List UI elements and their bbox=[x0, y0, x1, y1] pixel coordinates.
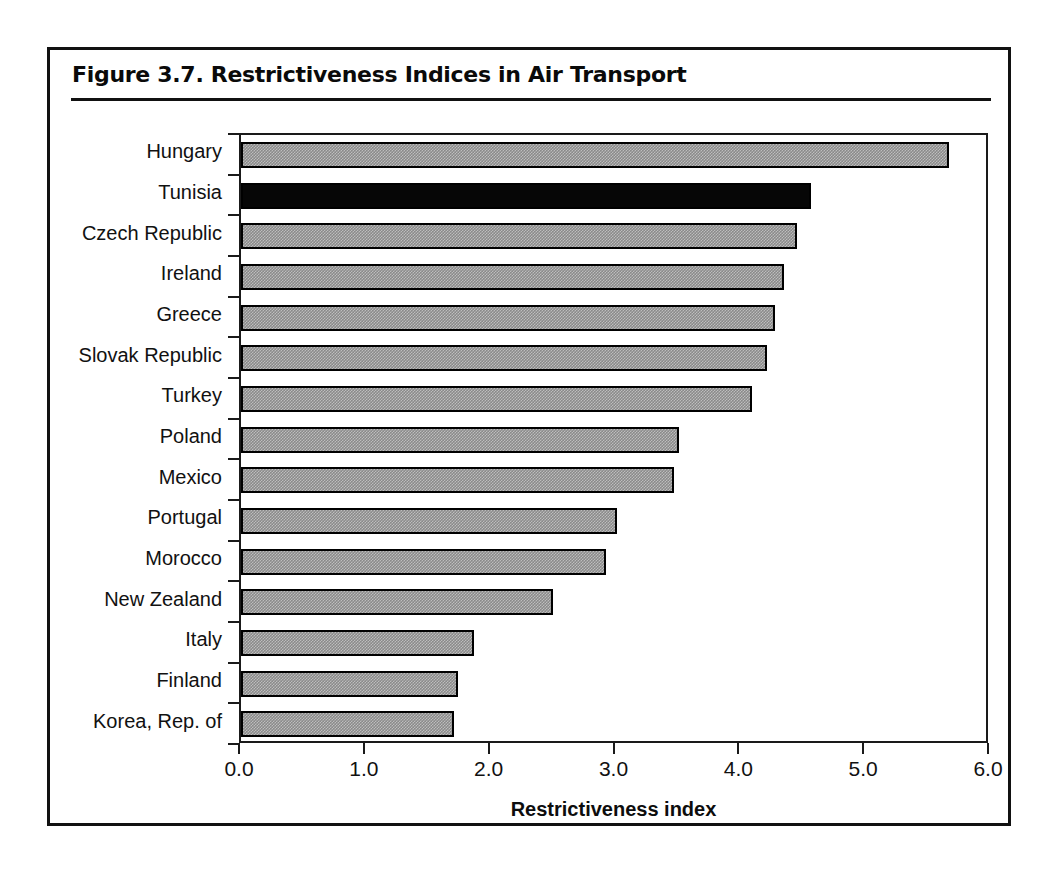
y-axis-tick bbox=[228, 296, 239, 298]
bar bbox=[241, 549, 606, 575]
y-axis-label: Mexico bbox=[42, 466, 222, 489]
bar-row bbox=[241, 460, 986, 501]
bar-chart: HungaryTunisiaCzech RepublicIrelandGreec… bbox=[50, 50, 1014, 829]
bar-row bbox=[241, 542, 986, 583]
bar-row bbox=[241, 501, 986, 542]
y-axis-tick bbox=[228, 621, 239, 623]
figure-frame: Figure 3.7. Restrictiveness Indices in A… bbox=[47, 47, 1011, 826]
x-axis-tick bbox=[363, 743, 365, 754]
bar-row bbox=[241, 623, 986, 664]
y-axis-label: Turkey bbox=[42, 384, 222, 407]
y-axis-label: Tunisia bbox=[42, 181, 222, 204]
y-axis-label: Korea, Rep. of bbox=[42, 710, 222, 733]
bar-row bbox=[241, 664, 986, 705]
bar bbox=[241, 671, 458, 697]
y-axis-tick bbox=[228, 702, 239, 704]
bar-row bbox=[241, 257, 986, 298]
y-axis-label: Morocco bbox=[42, 547, 222, 570]
x-axis-tick-label: 6.0 bbox=[973, 757, 1002, 781]
y-axis-tick bbox=[228, 336, 239, 338]
y-axis-tick bbox=[228, 662, 239, 664]
y-axis-label: Finland bbox=[42, 669, 222, 692]
y-axis-tick bbox=[228, 133, 239, 135]
bar-row bbox=[241, 135, 986, 176]
bar-row bbox=[241, 216, 986, 257]
bar-row bbox=[241, 298, 986, 339]
y-axis-tick bbox=[228, 499, 239, 501]
y-axis-label: Poland bbox=[42, 425, 222, 448]
x-axis-tick bbox=[862, 743, 864, 754]
bar-row bbox=[241, 176, 986, 217]
x-axis-tick-label: 5.0 bbox=[849, 757, 878, 781]
x-axis-tick bbox=[737, 743, 739, 754]
x-axis-tick bbox=[238, 743, 240, 754]
x-axis-tick bbox=[613, 743, 615, 754]
y-axis-tick bbox=[228, 540, 239, 542]
y-axis-label: New Zealand bbox=[42, 588, 222, 611]
x-axis-tick-label: 2.0 bbox=[474, 757, 503, 781]
x-axis-tick-label: 3.0 bbox=[599, 757, 628, 781]
y-axis-tick bbox=[228, 174, 239, 176]
bar bbox=[241, 183, 811, 209]
y-axis-label: Czech Republic bbox=[42, 222, 222, 245]
y-axis-tick bbox=[228, 418, 239, 420]
bar bbox=[241, 630, 474, 656]
bar bbox=[241, 345, 767, 371]
bar-row bbox=[241, 338, 986, 379]
x-axis-tick-label: 1.0 bbox=[349, 757, 378, 781]
y-axis-tick bbox=[228, 580, 239, 582]
bar bbox=[241, 264, 784, 290]
bar-row bbox=[241, 704, 986, 745]
plot-area bbox=[239, 133, 988, 743]
x-axis-tick-label: 4.0 bbox=[724, 757, 753, 781]
bar bbox=[241, 467, 674, 493]
y-axis-label: Ireland bbox=[42, 262, 222, 285]
y-axis-tick bbox=[228, 377, 239, 379]
bar bbox=[241, 589, 553, 615]
bar-row bbox=[241, 420, 986, 461]
x-axis-tick bbox=[488, 743, 490, 754]
bar bbox=[241, 305, 775, 331]
y-axis-tick bbox=[228, 458, 239, 460]
y-axis-label: Italy bbox=[42, 628, 222, 651]
x-axis-title: Restrictiveness index bbox=[239, 798, 988, 821]
bar bbox=[241, 711, 454, 737]
y-axis-label: Hungary bbox=[42, 140, 222, 163]
x-axis-tick bbox=[987, 743, 989, 754]
x-axis-tick-label: 0.0 bbox=[224, 757, 253, 781]
bar bbox=[241, 142, 949, 168]
bar bbox=[241, 508, 617, 534]
bar bbox=[241, 223, 797, 249]
y-axis-tick bbox=[228, 255, 239, 257]
y-axis-label: Greece bbox=[42, 303, 222, 326]
bar bbox=[241, 386, 752, 412]
y-axis-label: Portugal bbox=[42, 506, 222, 529]
bar bbox=[241, 427, 679, 453]
bar-row bbox=[241, 582, 986, 623]
y-axis-labels: HungaryTunisiaCzech RepublicIrelandGreec… bbox=[42, 133, 222, 743]
bar-row bbox=[241, 379, 986, 420]
y-axis-tick bbox=[228, 214, 239, 216]
y-axis-label: Slovak Republic bbox=[42, 344, 222, 367]
